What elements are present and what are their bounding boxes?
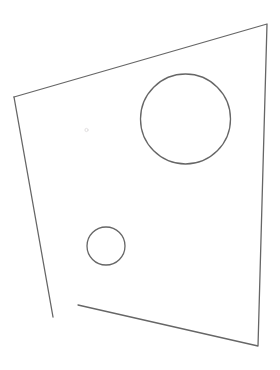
line-drawing-svg	[0, 0, 280, 370]
canvas-background	[0, 0, 280, 370]
drawing-canvas	[0, 0, 280, 370]
